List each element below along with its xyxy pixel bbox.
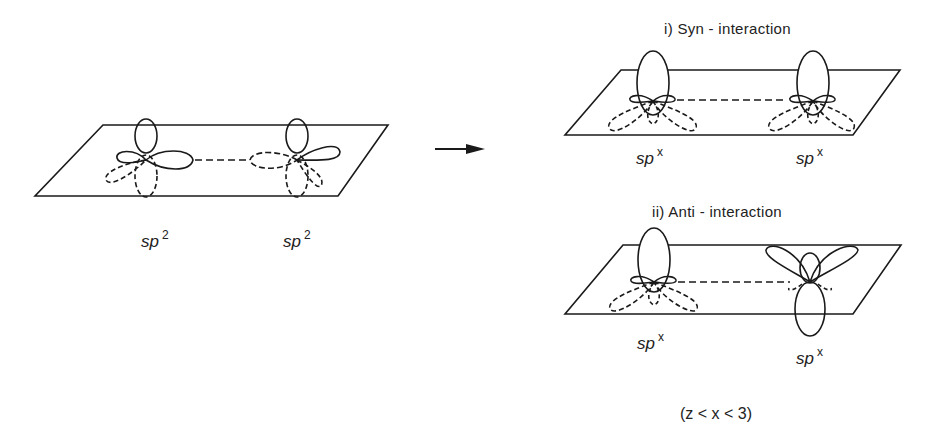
sp2-carbon-left bbox=[106, 119, 193, 197]
syn-label-left: spx bbox=[636, 145, 663, 169]
sp2-label-left: sp2 bbox=[141, 228, 169, 252]
anti-carbon-left bbox=[610, 228, 698, 311]
anti-plane-group bbox=[565, 228, 901, 336]
orbital-exponent: x bbox=[817, 145, 823, 159]
anti-interaction-title: ii) Anti - interaction bbox=[652, 203, 782, 220]
orbital-exponent: 2 bbox=[162, 228, 169, 242]
orbital-diagram bbox=[0, 0, 933, 446]
orbital-base: sp bbox=[141, 232, 159, 251]
syn-interaction-title: i) Syn - interaction bbox=[664, 20, 791, 37]
sp2-plane-group bbox=[35, 119, 388, 197]
sp2-label-right: sp2 bbox=[283, 228, 311, 252]
syn-label-right: spx bbox=[796, 145, 823, 169]
orbital-base: sp bbox=[796, 349, 814, 368]
orbital-exponent: 2 bbox=[304, 228, 311, 242]
orbital-base: sp bbox=[283, 232, 301, 251]
plane-anti bbox=[565, 245, 901, 314]
orbital-base: sp bbox=[796, 149, 814, 168]
anti-label-left: spx bbox=[637, 330, 664, 354]
syn-carbon-right bbox=[769, 51, 855, 131]
orbital-base: sp bbox=[636, 149, 654, 168]
syn-plane-group bbox=[565, 51, 900, 135]
sp2-carbon-right bbox=[250, 119, 340, 197]
syn-carbon-left bbox=[609, 51, 697, 131]
anti-label-right: spx bbox=[796, 345, 823, 369]
hybridization-condition: (z < x < 3) bbox=[680, 405, 752, 423]
plane-syn bbox=[565, 70, 900, 135]
orbital-exponent: x bbox=[817, 345, 823, 359]
anti-carbon-right bbox=[766, 246, 858, 336]
right-arrow-icon bbox=[435, 144, 485, 154]
orbital-exponent: x bbox=[657, 145, 663, 159]
orbital-exponent: x bbox=[658, 330, 664, 344]
orbital-base: sp bbox=[637, 334, 655, 353]
